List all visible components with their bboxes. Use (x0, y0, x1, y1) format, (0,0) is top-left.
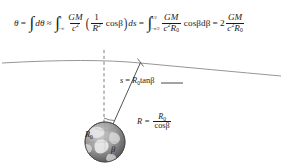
frac-denominator: c2 (70, 23, 80, 33)
frac-GM-over-c2R0: GM c2R0 (162, 13, 181, 33)
integral-3-upper: π/2 (151, 14, 160, 19)
eq-equals-1: = (21, 18, 26, 28)
s-equals: = (125, 76, 130, 85)
R-equals: = (145, 117, 150, 126)
eq-cos-beta-dbeta: cosβdβ (184, 18, 211, 28)
integral-2-upper: ∞ (58, 14, 64, 19)
frac-numerator: GM (162, 13, 180, 22)
integral-1: ∫ (29, 17, 34, 29)
eq-cos-beta: cosβ (106, 18, 123, 28)
label-R0: R0 (85, 130, 93, 139)
integral-symbol: ∫ (29, 16, 34, 28)
earth-globe (83, 122, 125, 162)
eq-equals-3: = (213, 18, 218, 28)
integral-3: ∫ π/2 −π/2 (148, 17, 160, 29)
eq-two: 2 (220, 18, 225, 28)
light-ray-path (2, 61, 281, 77)
beta-angle-arc (104, 118, 114, 121)
frac-denominator: c2R0 (162, 23, 181, 33)
R0-subscript: 0 (90, 134, 93, 140)
frac-GM-over-c2: GM c2 (67, 13, 85, 33)
s-tan-beta: tanβ (140, 76, 155, 85)
integral-2: ∫ ∞ −∞ (55, 17, 64, 29)
eq-approx: ≈ (47, 18, 52, 28)
c-symbol: c (163, 23, 167, 33)
R-subscript: 0 (176, 27, 179, 33)
label-arc-length-s: s=R0tanβ (120, 76, 154, 85)
R-num-subscript: 0 (163, 116, 166, 122)
R-fraction: R0 cosβ (153, 113, 171, 131)
integral-2-lower: −∞ (58, 26, 64, 31)
eq-ds: ds (128, 18, 136, 28)
frac-denominator: c2R0 (226, 23, 245, 33)
diagram-svg (0, 36, 283, 163)
R-frac-denominator: cosβ (153, 121, 171, 130)
frac-numerator: GM (226, 13, 244, 22)
c-exponent: 2 (231, 22, 234, 28)
integral-2-limits: ∞ −∞ (58, 18, 64, 29)
eq-equals-2: = (139, 18, 144, 28)
c-exponent: 2 (76, 22, 79, 28)
close-paren: ) (123, 17, 127, 29)
R-frac-numerator: R0 (157, 113, 168, 121)
integral-3-lower: −π/2 (151, 26, 160, 31)
R-symbol: R (137, 117, 142, 126)
eq-theta: θ (14, 18, 19, 28)
open-paren: ( (86, 17, 90, 29)
label-R-equation: R = R0 cosβ (137, 113, 172, 131)
frac-result: GM c2R0 (226, 13, 245, 33)
geometry-diagram: s=R0tanβ R0 β R = R0 cosβ (0, 36, 283, 163)
s-R-subscript: 0 (137, 80, 140, 86)
main-equation: θ = ∫ dθ ≈ ∫ ∞ −∞ GM c2 ( 1 R2 cosβ ) ds… (14, 9, 276, 37)
figure-canvas: θ = ∫ dθ ≈ ∫ ∞ −∞ GM c2 ( 1 R2 cosβ ) ds… (0, 0, 283, 163)
label-beta-angle: β (111, 144, 115, 154)
integral-3-limits: π/2 −π/2 (151, 18, 160, 29)
frac-one-over-R2: 1 R2 (91, 13, 103, 33)
s-symbol: s (120, 76, 123, 85)
R-subscript: 0 (240, 27, 243, 33)
frac-denominator: R2 (91, 23, 103, 33)
eq-dtheta: dθ (35, 18, 44, 28)
R-exponent: 2 (98, 22, 101, 28)
